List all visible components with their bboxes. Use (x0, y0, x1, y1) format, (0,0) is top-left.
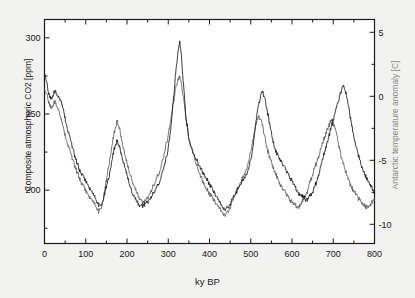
svg-text:5: 5 (379, 28, 384, 38)
x-axis-label: ky BP (0, 276, 415, 287)
svg-text:800: 800 (367, 249, 382, 259)
svg-text:600: 600 (284, 249, 299, 259)
svg-text:100: 100 (78, 249, 93, 259)
svg-text:500: 500 (243, 249, 258, 259)
svg-text:700: 700 (326, 249, 341, 259)
svg-text:200: 200 (119, 249, 134, 259)
plot-area: 0100200300400500600700800200250300-10-50… (25, 20, 391, 259)
svg-text:-10: -10 (379, 220, 392, 230)
co2-temperature-chart: 0100200300400500600700800200250300-10-50… (0, 0, 415, 298)
axes-frame (45, 20, 375, 244)
y-axis-left-label: Composite atmospheric CO2 [ppm] (23, 35, 33, 215)
svg-text:400: 400 (202, 249, 217, 259)
svg-text:-5: -5 (379, 156, 387, 166)
svg-text:0: 0 (42, 249, 47, 259)
y-axis-right-label: Antarctic temperature anomaly [C] (390, 35, 400, 215)
svg-text:300: 300 (161, 249, 176, 259)
svg-text:0: 0 (379, 92, 384, 102)
